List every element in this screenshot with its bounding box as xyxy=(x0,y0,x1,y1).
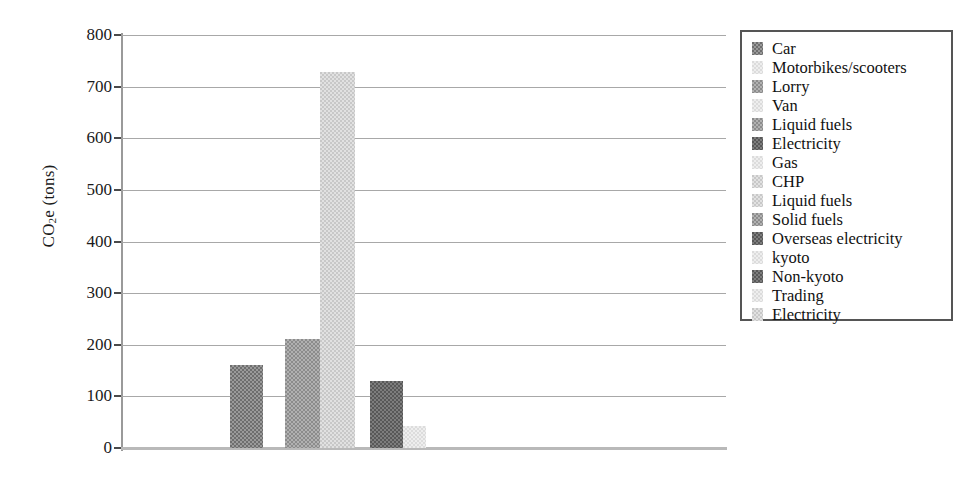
legend-item-label: Electricity xyxy=(772,134,841,153)
legend-swatch-icon xyxy=(752,251,763,264)
bar-electricity xyxy=(370,381,403,448)
y-axis-tick xyxy=(114,189,121,191)
legend-swatch-icon xyxy=(752,118,763,131)
y-axis-tick-label: 500 xyxy=(60,181,112,198)
gridline xyxy=(122,396,726,397)
legend-item[interactable]: Trading xyxy=(752,286,951,305)
legend-item-label: Solid fuels xyxy=(772,210,843,229)
y-axis-tick-label: 0 xyxy=(60,439,112,456)
legend-item-label: Trading xyxy=(772,286,824,305)
legend-swatch-icon xyxy=(752,175,763,188)
bar-lorry xyxy=(285,339,320,448)
legend-item-label: Electricity xyxy=(772,305,841,324)
gridline xyxy=(122,293,726,294)
y-axis-tick xyxy=(114,292,121,294)
y-axis-tick xyxy=(114,34,121,36)
bar-car xyxy=(230,365,263,448)
y-axis-tick xyxy=(114,86,121,88)
legend-swatch-icon xyxy=(752,289,763,302)
legend-item-label: Van xyxy=(772,96,798,115)
bar-trading xyxy=(403,426,426,448)
legend-item[interactable]: Lorry xyxy=(752,77,951,96)
legend-swatch-icon xyxy=(752,308,763,321)
legend-item[interactable]: CHP xyxy=(752,172,951,191)
legend-item[interactable]: kyoto xyxy=(752,248,951,267)
y-axis-tick-label: 800 xyxy=(60,26,112,43)
legend-item-label: Overseas electricity xyxy=(772,229,903,248)
gridline xyxy=(122,345,726,346)
legend-item[interactable]: Non-kyoto xyxy=(752,267,951,286)
chart-figure: CO2e (tons) 0100200300400500600700800 Ca… xyxy=(0,0,968,481)
legend-swatch-icon xyxy=(752,270,763,283)
legend-item[interactable]: Solid fuels xyxy=(752,210,951,229)
plot-area xyxy=(122,35,726,448)
gridline xyxy=(122,190,726,191)
legend-swatch-icon xyxy=(752,156,763,169)
y-axis-tick-label: 300 xyxy=(60,284,112,301)
legend-item-label: kyoto xyxy=(772,248,810,267)
legend-item[interactable]: Gas xyxy=(752,153,951,172)
y-axis-tick-label: 400 xyxy=(60,233,112,250)
legend-item-label: CHP xyxy=(772,172,804,191)
legend-swatch-icon xyxy=(752,80,763,93)
legend-item-label: Motorbikes/scooters xyxy=(772,58,907,77)
legend-item-label: Gas xyxy=(772,153,798,172)
legend-item[interactable]: Electricity xyxy=(752,305,951,324)
bar-chp xyxy=(320,72,355,448)
legend-swatch-icon xyxy=(752,61,763,74)
legend-item[interactable]: Liquid fuels xyxy=(752,191,951,210)
y-axis-tick xyxy=(114,395,121,397)
legend-item-label: Lorry xyxy=(772,77,810,96)
gridline xyxy=(122,35,726,36)
legend-item-label: Liquid fuels xyxy=(772,191,852,210)
gridline xyxy=(122,87,726,88)
gridline xyxy=(122,138,726,139)
legend-swatch-icon xyxy=(752,194,763,207)
legend-swatch-icon xyxy=(752,232,763,245)
y-axis-tick-label: 200 xyxy=(60,336,112,353)
legend-swatch-icon xyxy=(752,137,763,150)
y-axis-tick-label: 100 xyxy=(60,387,112,404)
y-axis-tick xyxy=(114,344,121,346)
legend-item-label: Liquid fuels xyxy=(772,115,852,134)
y-axis-tick-label: 600 xyxy=(60,129,112,146)
y-axis-tick-label: 700 xyxy=(60,78,112,95)
gridline xyxy=(122,242,726,243)
legend-item[interactable]: Motorbikes/scooters xyxy=(752,58,951,77)
legend-item-label: Car xyxy=(772,39,796,58)
chart-legend: CarMotorbikes/scootersLorryVanLiquid fue… xyxy=(740,30,953,321)
legend-swatch-icon xyxy=(752,99,763,112)
legend-item[interactable]: Electricity xyxy=(752,134,951,153)
y-axis-tick xyxy=(114,241,121,243)
legend-item[interactable]: Overseas electricity xyxy=(752,229,951,248)
legend-item[interactable]: Car xyxy=(752,39,951,58)
legend-swatch-icon xyxy=(752,42,763,55)
legend-item[interactable]: Liquid fuels xyxy=(752,115,951,134)
y-axis-tick xyxy=(114,137,121,139)
y-axis-tick-labels: 0100200300400500600700800 xyxy=(56,35,112,448)
legend-item[interactable]: Van xyxy=(752,96,951,115)
legend-swatch-icon xyxy=(752,213,763,226)
legend-item-label: Non-kyoto xyxy=(772,267,844,286)
y-axis-tick xyxy=(114,447,121,449)
